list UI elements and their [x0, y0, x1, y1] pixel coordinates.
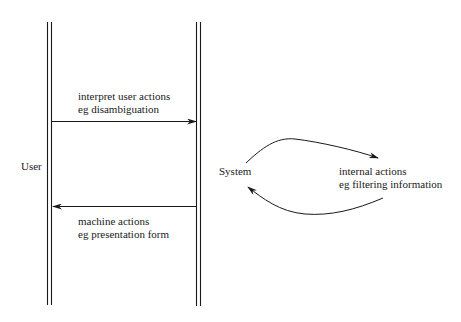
user-lifeline — [48, 22, 52, 305]
internal-loop-arrow-top — [246, 139, 378, 163]
user-to-system-label-line1: interpret user actions — [78, 90, 170, 103]
internal-actions-label-line2: eg filtering information — [339, 178, 442, 191]
system-to-user-label-line1: machine actions — [78, 215, 149, 228]
user-to-system-label-line2: eg disambiguation — [78, 103, 159, 116]
diagram-canvas — [0, 0, 461, 322]
user-actor-label: User — [21, 160, 42, 173]
system-actor-label: System — [219, 165, 251, 178]
system-lifeline — [197, 22, 201, 306]
internal-loop-arrow-bottom — [248, 187, 383, 214]
system-to-user-label-line2: eg presentation form — [78, 228, 169, 241]
internal-actions-label-line1: internal actions — [339, 165, 407, 178]
